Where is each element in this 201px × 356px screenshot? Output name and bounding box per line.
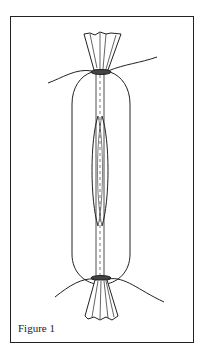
spindle-right bbox=[102, 116, 108, 226]
spindle-left bbox=[92, 116, 98, 226]
figure-illustration bbox=[0, 0, 201, 356]
top-knot bbox=[91, 70, 111, 75]
capsule-body bbox=[72, 72, 130, 284]
figure-caption: Figure 1 bbox=[18, 322, 55, 334]
